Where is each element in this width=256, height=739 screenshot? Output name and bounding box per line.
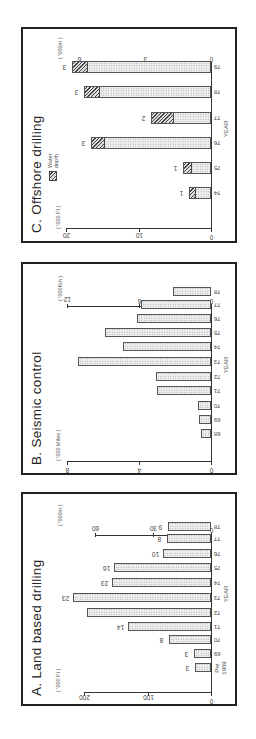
category-label: 78 [207, 89, 227, 96]
bar-value-label: 3 [180, 651, 192, 658]
right-tick [95, 533, 96, 537]
left-tick [139, 461, 140, 465]
bar-value-label: 16 [100, 565, 112, 572]
bar-value-label: 14 [114, 624, 126, 631]
right-tick [67, 304, 68, 308]
bar-value-label: 23 [98, 580, 110, 587]
water-depth-segment [152, 113, 174, 123]
left-tick [67, 461, 68, 465]
left-tick-label: 0 [210, 698, 214, 705]
panel-title: C. Offshore drilling [29, 115, 44, 233]
bar [151, 112, 211, 124]
category-label: 70 [207, 403, 227, 410]
category-label: 69 [207, 417, 227, 424]
bar-value-label: 1 [169, 165, 181, 172]
bar-value-label: 3 [182, 665, 194, 672]
left-tick-label: 0 [210, 234, 214, 241]
panel-seismic-control: B. Seismic control ( '000 Miles ) ( '000… [21, 262, 237, 475]
left-tick [211, 461, 212, 465]
bar [105, 329, 211, 338]
left-axis-unit: ( '000 Miles ) [55, 430, 61, 461]
left-tick [211, 228, 212, 232]
category-label: 68 [207, 431, 227, 438]
right-tick-label: 12 [64, 296, 71, 303]
bar-value-label: 3 [58, 64, 70, 71]
bar [167, 535, 211, 544]
bar [163, 550, 211, 559]
bar [195, 664, 211, 673]
bar [78, 358, 211, 367]
bar [87, 609, 211, 618]
bar [112, 579, 211, 588]
water-depth-segment [85, 87, 100, 97]
category-label: 72 [207, 374, 227, 381]
category-label: 76 [207, 316, 227, 323]
left-axis-unit: ( '000 Ft ) [55, 669, 61, 692]
category-label: 77 [207, 302, 227, 309]
left-tick-label: 8 [66, 467, 70, 474]
bar-value-label: 23 [59, 595, 71, 602]
category-label: 71 [207, 388, 227, 395]
bar-value-label: 3 [77, 140, 89, 147]
right-axis-unit: ( '000m ) [57, 37, 63, 59]
x-axis-label: YEAR [223, 357, 229, 373]
category-label: 69 [207, 651, 227, 658]
right-tick-label: 60 [92, 525, 99, 532]
category-label: 74 [207, 190, 227, 197]
water-depth-segment [92, 138, 105, 148]
bar [114, 564, 211, 573]
category-label: 75 [207, 565, 227, 572]
left-tick-label: 10 [135, 232, 142, 239]
panel-title: B. Seismic control [29, 352, 44, 465]
left-tick [211, 692, 212, 696]
panel-offshore-drilling: C. Offshore drilling ( '000 Ft ) ( '000m… [21, 27, 237, 243]
left-tick-label: 0 [210, 467, 214, 474]
bar-value-label: 2 [137, 115, 149, 122]
bar [72, 61, 211, 73]
left-tick-label: 4 [138, 467, 142, 474]
left-tick-label: 200 [79, 694, 90, 701]
panel-land-based-drilling: A. Land based drilling ( '000 Ft ) ( '00… [21, 492, 237, 706]
category-label: 75 [207, 165, 227, 172]
category-label: 70 [207, 637, 227, 644]
bar [168, 523, 211, 532]
category-label: 78 [207, 289, 227, 296]
right-axis-unit: ( '000Km ) [57, 276, 63, 301]
bar-value-label: 10 [149, 551, 161, 558]
category-label: Pre 1969 [214, 658, 227, 678]
bar [73, 594, 211, 603]
category-label: 71 [207, 624, 227, 631]
water-depth-segment [184, 163, 192, 173]
right-axis-unit: ( '000m ) [57, 504, 63, 526]
category-label: 79 [207, 64, 227, 71]
bar [91, 137, 211, 149]
water-depth-segment [73, 62, 88, 72]
figure-stage: A. Land based drilling ( '000 Ft ) ( '00… [0, 0, 256, 739]
category-label: 76 [207, 551, 227, 558]
bar [84, 86, 211, 98]
bar-value-label: 9 [154, 524, 166, 531]
bar [173, 288, 211, 297]
category-label: 75 [207, 330, 227, 337]
bar [137, 315, 211, 324]
bar-value-label: 1 [176, 190, 188, 197]
bar [157, 387, 211, 396]
bar [141, 301, 211, 310]
bar [128, 623, 211, 632]
water-depth-segment [190, 188, 196, 198]
left-tick-label: 100 [143, 694, 154, 701]
left-axis-unit: ( '000 Ft ) [55, 206, 61, 229]
x-axis-label: YEAR [223, 586, 229, 602]
category-label: 74 [207, 344, 227, 351]
panel-title: A. Land based drilling [29, 560, 44, 696]
water-depth-legend-swatch [49, 171, 57, 181]
category-label: 78 [207, 524, 227, 531]
bar-value-label: 8 [154, 536, 166, 543]
water-depth-legend-label: Water depth [47, 144, 59, 168]
category-label: 77 [207, 536, 227, 543]
left-tick-label: 20 [63, 232, 70, 239]
category-label: 76 [207, 140, 227, 147]
bar [156, 373, 211, 382]
bar-value-label: 3 [71, 89, 83, 96]
x-axis-label: YEAR [223, 121, 229, 137]
